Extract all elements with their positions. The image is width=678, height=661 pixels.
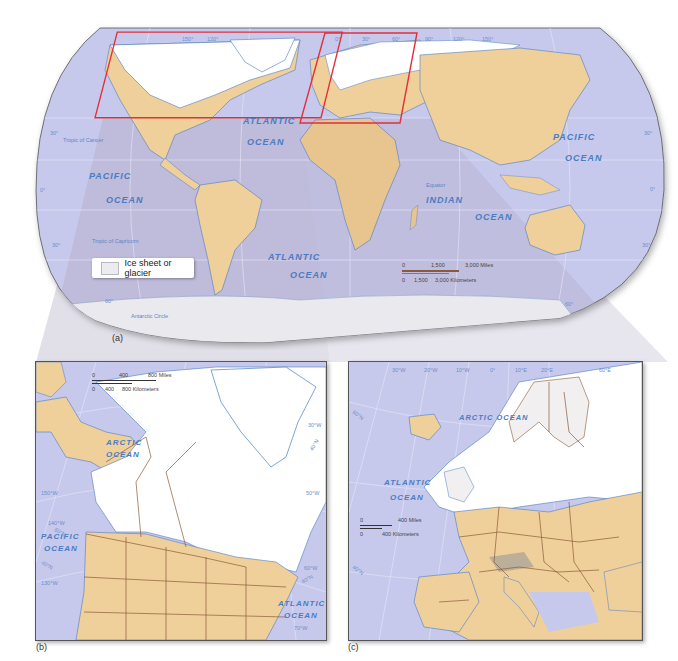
lat-label-right: 30° bbox=[642, 242, 650, 248]
grid-label: 10°W bbox=[456, 367, 470, 373]
arctic-ocean-label-2: OCEAN bbox=[106, 450, 140, 459]
scale-mi-1: 1,500 bbox=[431, 262, 445, 268]
lon-label: 150° bbox=[182, 36, 193, 42]
world-scale-bar: 0 1,500 3,000 Miles 0 1,500 3,000 Kilome… bbox=[402, 262, 532, 286]
pacific-west-label-1: PACIFIC bbox=[89, 171, 131, 181]
scale-mi-0: 0 bbox=[360, 517, 363, 523]
grid-label: 70°W bbox=[294, 625, 308, 631]
panel-c-tag: (c) bbox=[348, 642, 359, 652]
pacific-west-label-2: OCEAN bbox=[106, 195, 144, 205]
atlantic-ocean-label-1: ATLANTIC bbox=[384, 478, 431, 487]
grid-label: 10°E bbox=[515, 367, 527, 373]
panel-a-tag: (a) bbox=[112, 333, 123, 343]
lon-label: 30° bbox=[362, 36, 370, 42]
scale-mi-2: 3,000 Miles bbox=[465, 262, 493, 268]
lon-label: 60° bbox=[392, 36, 400, 42]
grid-label: 60°E bbox=[599, 367, 611, 373]
ice-sheet-swatch bbox=[101, 262, 119, 275]
lon-label: 0° bbox=[335, 36, 340, 42]
lat-label-left: 0° bbox=[40, 187, 45, 193]
panel-b-tag: (b) bbox=[36, 642, 47, 652]
tropic-cancer-label: Tropic of Cancer bbox=[63, 137, 103, 143]
lat-label-right: 60° bbox=[565, 301, 573, 307]
lon-label: 150° bbox=[482, 36, 493, 42]
scale-mi-1: 400 Miles bbox=[398, 517, 422, 523]
tropic-capricorn-label: Tropic of Capricorn bbox=[92, 238, 139, 244]
grid-label: 150°W bbox=[41, 490, 58, 496]
na-scale-bar: 0 400 800 Miles 0 400 800 Kilometers bbox=[92, 372, 202, 398]
scale-km-0: 0 bbox=[360, 531, 363, 537]
grid-label: 30°W bbox=[308, 422, 322, 428]
pacific-ocean-label-2: OCEAN bbox=[44, 544, 78, 553]
scale-km-0: 0 bbox=[402, 277, 405, 283]
arctic-ocean-label-1: ARCTIC bbox=[106, 438, 142, 447]
atlantic-south-label-1: ATLANTIC bbox=[268, 252, 320, 262]
antarctic-circle-label: Antarctic Circle bbox=[131, 313, 168, 319]
scale-km-1: 1,500 bbox=[414, 277, 428, 283]
grid-label: 20°W bbox=[424, 367, 438, 373]
lon-label: 120° bbox=[207, 36, 218, 42]
equator-label: Equator bbox=[426, 182, 445, 188]
scale-km-2: 800 Kilometers bbox=[122, 386, 159, 392]
europe-scale-bar: 0 400 Miles 0 400 Kilometers bbox=[360, 517, 450, 541]
grid-label: 140°W bbox=[48, 520, 65, 526]
atlantic-north-label-2: OCEAN bbox=[247, 137, 285, 147]
scale-km-1: 400 Kilometers bbox=[382, 531, 419, 537]
grid-label: 20°E bbox=[541, 367, 553, 373]
map-legend: Ice sheet or glacier bbox=[92, 258, 194, 278]
grid-label: 30°W bbox=[392, 367, 406, 373]
atlantic-north-label-1: ATLANTIC bbox=[243, 116, 295, 126]
lat-label-left: 30° bbox=[52, 242, 60, 248]
europe-panel: ARCTIC OCEAN ATLANTIC OCEAN 30°W 20°W 10… bbox=[348, 361, 643, 641]
lat-label-left: 60° bbox=[105, 298, 113, 304]
lat-label-right: 0° bbox=[650, 186, 655, 192]
scale-mi-2: 800 Miles bbox=[148, 372, 172, 378]
scale-mi-0: 0 bbox=[92, 372, 95, 378]
world-map-panel: ATLANTIC OCEAN PACIFIC OCEAN PACIFIC OCE… bbox=[0, 0, 678, 350]
arctic-ocean-label: ARCTIC OCEAN bbox=[459, 413, 529, 422]
grid-label: 60°W bbox=[304, 565, 318, 571]
scale-km-1: 400 bbox=[105, 386, 114, 392]
lon-label: 90° bbox=[425, 36, 433, 42]
lat-label-right: 30° bbox=[644, 130, 652, 136]
scale-mi-0: 0 bbox=[402, 262, 405, 268]
legend-label: Ice sheet or glacier bbox=[125, 258, 194, 278]
pacific-east-label-1: PACIFIC bbox=[553, 132, 595, 142]
grid-label: 0° bbox=[490, 367, 495, 373]
scale-km-2: 3,000 Kilometers bbox=[435, 277, 476, 283]
grid-label: 130°W bbox=[41, 580, 58, 586]
lon-label: 120° bbox=[453, 36, 464, 42]
atlantic-south-label-2: OCEAN bbox=[290, 270, 328, 280]
indian-label-1: INDIAN bbox=[426, 195, 463, 205]
atlantic-ocean-label-1: ATLANTIC bbox=[278, 599, 325, 608]
scale-mi-1: 400 bbox=[119, 372, 128, 378]
atlantic-ocean-label-2: OCEAN bbox=[390, 493, 424, 502]
atlantic-ocean-label-2: OCEAN bbox=[284, 611, 318, 620]
indian-label-2: OCEAN bbox=[475, 212, 513, 222]
scale-km-0: 0 bbox=[92, 386, 95, 392]
lat-label-left: 30° bbox=[50, 130, 58, 136]
grid-label: 50°W bbox=[306, 490, 320, 496]
pacific-east-label-2: OCEAN bbox=[565, 153, 603, 163]
north-america-panel: ARCTIC OCEAN PACIFIC OCEAN ATLANTIC OCEA… bbox=[35, 361, 327, 641]
